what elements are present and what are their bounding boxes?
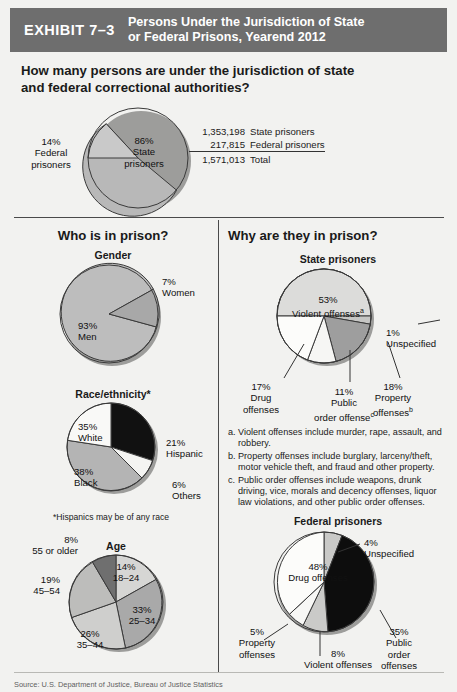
label-age-18-24-line1: 18–24 [104,572,148,583]
count-row-total: 1,571,013 Total [189,151,325,166]
race-chart-title: Race/ethnicity* [18,388,208,400]
footnote-b: b. Property offenses include burglary, l… [228,451,444,474]
count-number: 1,353,198 [189,125,245,138]
label-state-line1: State [113,146,175,157]
label-property-federal-pct: 5% [226,626,288,637]
label-violent-federal-line1: Violent offenses [292,659,384,670]
footnote-a: a. Violent offenses include murder, rape… [228,427,444,450]
label-age-25-34: 33% 25–34 [120,604,164,627]
footnote-b-text: Property offenses include burglary, larc… [238,451,444,474]
label-hispanic: 21% Hispanic [166,437,203,460]
count-label: State prisoners [250,125,315,138]
label-public-order-state: 11% Public order offensec [300,386,388,423]
label-unspecified-state-pct: 1% [386,327,436,338]
race-footnote: *Hispanics may be of any race [16,512,206,522]
divider-horizontal-top [14,217,444,218]
label-drug-state-line1: Drug [228,392,294,403]
footnote-marker-c: c [370,411,374,418]
footnote-c-text: Public order offenses include weapons, d… [238,475,444,509]
label-age-25-34-line1: 25–34 [120,615,164,626]
exhibit-title-line1: Persons Under the Jurisdiction of State [128,15,365,30]
label-unspecified-state-line1: Unspecified [386,338,436,349]
label-men-line1: Men [78,331,97,342]
label-drug-federal-line1: Drug offenses [270,572,366,583]
label-others-line1: Others [172,490,201,501]
label-women-pct: 7% [162,276,195,287]
label-drug-offenses-state: 17% Drug offenses [228,381,294,415]
label-black: 38% Black [74,466,97,489]
label-men: 93% Men [78,320,97,343]
label-age-55plus-line1: 55 or older [6,545,78,556]
label-black-line1: Black [74,477,97,488]
label-others: 6% Others [172,479,201,502]
label-women: 7% Women [162,276,195,299]
footnote-a-mark: a. [228,427,238,450]
question-heading-right: Why are they in prison? [228,228,443,243]
label-black-pct: 38% [74,466,97,477]
label-age-18-24-pct: 14% [104,561,148,572]
label-age-55plus: 8% 55 or older [6,534,78,557]
label-violent-federal-pct: 8% [292,648,384,659]
question-top-line2: and federal correctional authorities? [21,79,421,96]
exhibit-number: EXHIBIT 7–3 [10,22,115,38]
label-drug-state-line2: offenses [228,404,294,415]
count-row: 1,353,198 State prisoners [189,125,325,138]
label-drug-federal-pct: 48% [270,561,366,572]
label-state-prisoners: 86% State prisoners [113,135,175,169]
label-age-35-44: 26% 35–44 [68,628,112,651]
label-unspecified-state: 1% Unspecified [386,327,436,350]
label-state-pct: 86% [113,135,175,146]
label-federal-pct: 14% [20,136,82,147]
label-drug-offenses-federal: 48% Drug offenses [270,561,366,584]
exhibit-page: EXHIBIT 7–3 Persons Under the Jurisdicti… [0,0,457,692]
footnote-b-mark: b. [228,451,238,474]
label-age-35-44-line1: 35–44 [68,639,112,650]
state-offenses-title: State prisoners [238,253,438,265]
label-property-offenses-federal: 5% Property offenses [226,626,288,660]
label-age-55plus-pct: 8% [6,534,78,545]
exhibit-title: Persons Under the Jurisdiction of State … [115,15,365,45]
count-number: 1,571,013 [189,153,245,166]
label-federal-line2: prisoners [20,159,82,170]
federal-offenses-title: Federal prisoners [238,515,438,527]
label-public-order-state-pct: 11% [300,386,388,397]
offense-footnotes: a. Violent offenses include murder, rape… [228,427,444,510]
question-heading-left: Who is in prison? [18,228,208,243]
question-top-line1: How many persons are under the jurisdict… [21,62,421,79]
label-property-federal-line2: offenses [226,649,288,660]
source-line: Source: U.S. Department of Justice, Bure… [14,680,444,689]
question-heading-top: How many persons are under the jurisdict… [21,62,421,96]
footnote-a-text: Violent offenses include murder, rape, a… [238,427,444,450]
gender-pie [57,262,163,368]
label-property-federal-line1: Property [226,637,288,648]
divider-vertical [218,220,219,672]
label-drug-state-pct: 17% [228,381,294,392]
label-hispanic-line1: Hispanic [166,448,203,459]
label-unspecified-federal-line1: Unspecified [364,548,414,559]
label-violent-offenses-state: 53% Violent offensesa [276,294,380,320]
label-state-line2: prisoners [113,158,175,169]
label-public-order-state-line1: Public [300,397,388,408]
label-federal-line1: Federal [20,147,82,158]
label-age-35-44-pct: 26% [68,628,112,639]
label-hispanic-pct: 21% [166,437,203,448]
label-unspecified-federal: 4% Unspecified [364,537,414,560]
footnote-marker-a: a [360,307,364,314]
gender-chart-title: Gender [18,249,208,261]
divider-horizontal-bottom [14,672,444,673]
label-violent-offenses-federal: 8% Violent offenses [292,648,384,671]
footnote-c: c. Public order offenses include weapons… [228,475,444,509]
label-violent-state-line1: Violent offensesa [276,305,380,320]
label-age-45-54: 19% 45–54 [6,574,60,597]
footnote-marker-b: b [409,406,413,413]
label-federal-prisoners: 14% Federal prisoners [20,136,82,170]
label-others-pct: 6% [172,479,201,490]
count-number: 217,815 [189,138,245,151]
exhibit-title-line2: or Federal Prisons, Yearend 2012 [128,30,365,45]
count-label: Federal prisoners [250,138,325,151]
label-unspecified-federal-pct: 4% [364,537,414,548]
label-violent-state-pct: 53% [276,294,380,305]
exhibit-header-bar: EXHIBIT 7–3 Persons Under the Jurisdicti… [10,8,447,52]
label-white: 35% White [78,421,103,444]
label-white-line1: White [78,432,103,443]
